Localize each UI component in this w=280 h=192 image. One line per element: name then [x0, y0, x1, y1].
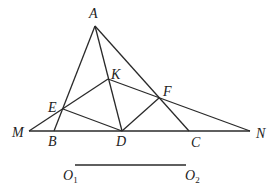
segment-MK: [29, 79, 108, 131]
label-K: K: [110, 67, 121, 82]
label-M: M: [11, 125, 25, 140]
label-A: A: [88, 6, 98, 21]
segment-DF: [122, 98, 159, 131]
label-C: C: [191, 135, 201, 150]
label-N: N: [255, 126, 266, 141]
segment-AB: [54, 26, 95, 131]
geometry-diagram: A K F E M B D C N O1 O2: [0, 0, 280, 192]
segment-KN: [108, 79, 250, 131]
label-O2-sub: 2: [195, 175, 200, 185]
segment-ED: [63, 109, 122, 131]
label-F: F: [162, 84, 172, 99]
label-D: D: [115, 134, 126, 149]
label-E: E: [47, 100, 57, 115]
label-O1-sub: 1: [73, 175, 78, 185]
label-O1: O1: [63, 168, 78, 185]
label-O2: O2: [185, 168, 200, 185]
label-O1-main: O: [63, 168, 73, 183]
label-B: B: [48, 134, 57, 149]
label-O2-main: O: [185, 168, 195, 183]
